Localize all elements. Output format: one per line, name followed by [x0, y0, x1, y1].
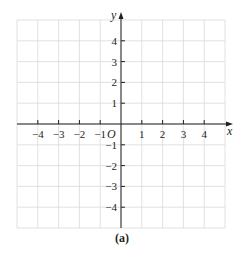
x-tick-label: 3: [181, 128, 187, 140]
x-axis-label: x: [226, 124, 233, 138]
y-tick-label: −3: [105, 180, 117, 192]
origin-label: O: [107, 127, 116, 141]
x-tick-label: 2: [160, 128, 166, 140]
y-tick-label: −2: [105, 160, 117, 172]
y-axis-arrow-icon: [119, 12, 124, 19]
figure-caption: (a): [0, 231, 244, 246]
y-tick-label: −4: [105, 201, 117, 213]
x-tick-label: 4: [201, 128, 207, 140]
y-tick-label: 3: [112, 56, 118, 68]
x-tick-label: −3: [53, 128, 65, 140]
y-tick-label: 1: [112, 97, 118, 109]
x-tick-label: −4: [32, 128, 44, 140]
axes: [17, 12, 233, 228]
x-tick-label: −2: [74, 128, 86, 140]
y-tick-label: 2: [112, 76, 118, 88]
y-tick-label: 4: [112, 35, 118, 47]
coordinate-plane: −4−3−2−112344321−1−2−3−4 x y O: [0, 0, 244, 258]
y-axis-label: y: [110, 8, 117, 22]
x-tick-label: 1: [139, 128, 145, 140]
